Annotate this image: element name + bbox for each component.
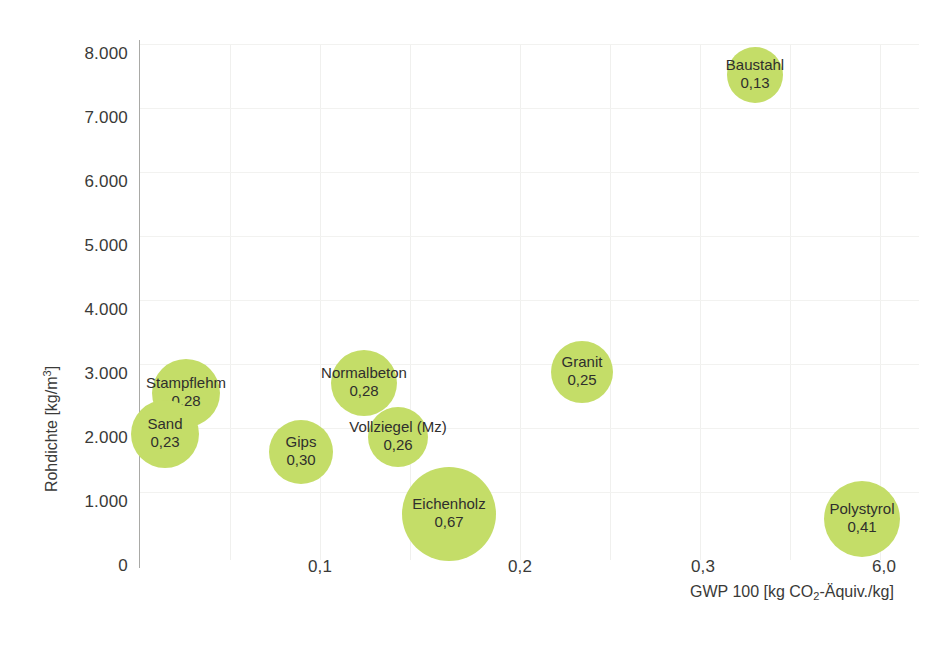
y-tick-label: 1.000 xyxy=(84,492,128,512)
gridline-vertical xyxy=(230,44,231,560)
bubble-point[interactable]: Baustahl0,13 xyxy=(727,47,783,103)
x-axis-title: GWP 100 [kg CO2-Äquiv./kg] xyxy=(690,583,894,601)
y-axis-title-superscript: 3 xyxy=(41,370,53,376)
y-axis-title-pre: Rohdichte [kg/m xyxy=(43,376,60,492)
y-tick-label: 2.000 xyxy=(84,428,128,448)
gridline-horizontal xyxy=(139,300,919,301)
x-axis-title-pre: GWP 100 [kg CO xyxy=(690,583,813,600)
y-tick-label: 4.000 xyxy=(84,300,128,320)
x-tick-label: 0,3 xyxy=(691,557,715,577)
gridline-horizontal xyxy=(139,108,919,109)
y-axis-title: Rohdichte [kg/m3] xyxy=(43,329,61,529)
y-tick-label: 6.000 xyxy=(84,172,128,192)
y-tick-label: 0 xyxy=(118,556,128,576)
x-tick-label: 0,1 xyxy=(308,557,332,577)
y-tick-label: 5.000 xyxy=(84,236,128,256)
y-axis-line xyxy=(139,40,140,568)
bubble-chart-figure: 8.000 7.000 6.000 5.000 4.000 3.000 2.00… xyxy=(0,0,940,645)
bubble-circle[interactable] xyxy=(727,47,783,103)
bubble-point[interactable]: Gips0,30 xyxy=(269,420,333,484)
bubble-circle[interactable] xyxy=(824,481,900,557)
gridline-vertical xyxy=(700,44,701,560)
gridline-horizontal xyxy=(139,44,919,45)
gridline-horizontal xyxy=(139,172,919,173)
x-axis-title-subscript: 2 xyxy=(813,590,819,602)
gridline-vertical xyxy=(790,44,791,560)
bubble-point[interactable]: Polystyrol0,41 xyxy=(824,481,900,557)
bubble-circle[interactable] xyxy=(402,467,496,561)
x-tick-label: 6,0 xyxy=(872,557,896,577)
bubble-circle[interactable] xyxy=(269,420,333,484)
x-axis-title-post: -Äquiv./kg] xyxy=(819,583,893,600)
bubble-point[interactable]: Granit0,25 xyxy=(551,341,613,403)
gridline-horizontal xyxy=(139,364,919,365)
plot-area xyxy=(139,44,919,560)
bubble-circle[interactable] xyxy=(368,407,428,467)
gridline-horizontal xyxy=(139,236,919,237)
gridline-vertical xyxy=(520,44,521,560)
bubble-circle[interactable] xyxy=(551,341,613,403)
bubble-point[interactable]: Eichenholz0,67 xyxy=(402,467,496,561)
y-tick-label: 3.000 xyxy=(84,364,128,384)
gridline-horizontal xyxy=(139,492,919,493)
y-tick-label: 7.000 xyxy=(84,108,128,128)
gridline-horizontal xyxy=(139,428,919,429)
bubble-point[interactable]: Vollziegel (Mz)0,26 xyxy=(368,407,428,467)
x-tick-label: 0,2 xyxy=(508,557,532,577)
y-tick-label: 8.000 xyxy=(84,44,128,64)
y-axis-ticks: 8.000 7.000 6.000 5.000 4.000 3.000 2.00… xyxy=(0,0,128,645)
gridline-vertical xyxy=(610,44,611,560)
bubble-point[interactable]: Sand0,23 xyxy=(131,400,199,468)
bubble-circle[interactable] xyxy=(131,400,199,468)
